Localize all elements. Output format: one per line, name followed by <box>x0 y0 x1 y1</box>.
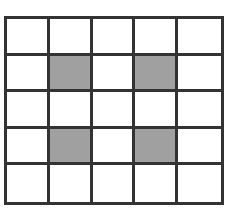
grid-cell-empty <box>93 129 136 166</box>
grid-cell-empty <box>135 165 178 202</box>
grid-cell-empty <box>93 19 136 56</box>
grid-cell-empty <box>178 92 221 129</box>
grid-cell-empty <box>50 165 93 202</box>
grid-cell-empty <box>93 56 136 93</box>
grid-cell-empty <box>178 129 221 166</box>
grid-figure <box>0 0 233 208</box>
grid-cell-empty <box>93 165 136 202</box>
grid-cell-empty <box>93 92 136 129</box>
grid-cell-shaded <box>50 56 93 93</box>
grid-cell-empty <box>50 19 93 56</box>
grid-cell-empty <box>7 165 50 202</box>
grid-cell-empty <box>7 56 50 93</box>
grid-container <box>4 16 224 205</box>
grid-cell-empty <box>7 19 50 56</box>
grid-cell-empty <box>7 92 50 129</box>
grid-cell-empty <box>178 56 221 93</box>
grid-cell-empty <box>135 19 178 56</box>
grid-cell-shaded <box>50 129 93 166</box>
grid-cell-empty <box>7 129 50 166</box>
grid-cell-shaded <box>135 129 178 166</box>
grid-cell-empty <box>50 92 93 129</box>
grid-cell-empty <box>178 165 221 202</box>
grid-cell-shaded <box>135 56 178 93</box>
grid-cell-empty <box>178 19 221 56</box>
grid-cell-empty <box>135 92 178 129</box>
